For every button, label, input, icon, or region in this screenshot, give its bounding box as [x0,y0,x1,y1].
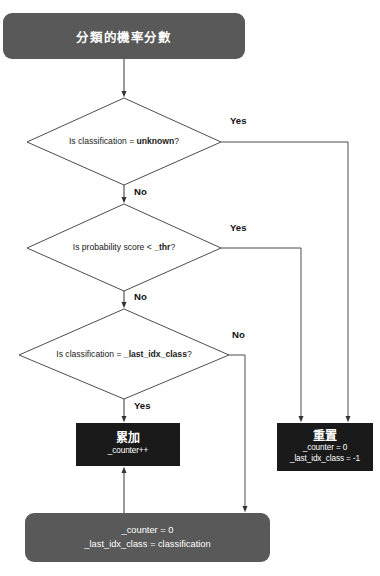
decision-2-shape [27,204,221,291]
flowchart-canvas [0,0,380,576]
decision-1-shape [27,98,221,185]
edge-decision-1-yes [221,142,348,419]
reset-node-shape [277,423,373,471]
edge-decision-2-yes [221,248,301,419]
title-node-shape [3,13,245,59]
footer-node-shape [25,513,270,562]
edge-decision-3-no [229,355,245,509]
flowchart-diagram: 分類的機率分數 Is classification = unknown? Is … [0,0,380,576]
decision-3-shape [19,309,229,399]
accumulate-node-shape [76,423,180,466]
